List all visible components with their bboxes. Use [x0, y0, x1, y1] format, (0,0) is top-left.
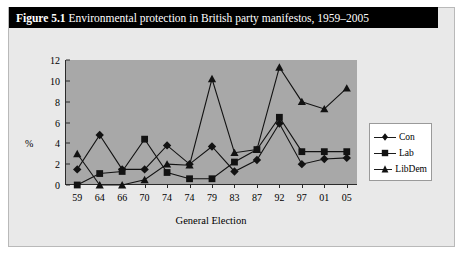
- plot-area: 024681012 59646670747479838792970105: [65, 60, 357, 185]
- x-axis-label: General Election: [65, 215, 357, 226]
- series-con: [73, 119, 351, 175]
- legend-marker-diamond: [374, 137, 396, 138]
- chart-container: % 024681012 59646670747479838792970105 G…: [9, 33, 438, 233]
- series-lab: [74, 114, 350, 189]
- y-axis-label: %: [25, 138, 33, 149]
- x-tick-87-8: 87: [252, 184, 262, 203]
- x-tick-74-4: 74: [162, 184, 172, 203]
- series-layer: [66, 60, 358, 185]
- x-tick-70-3: 70: [140, 184, 150, 203]
- x-tick-01-11: 01: [319, 184, 329, 203]
- x-tick-05-12: 05: [342, 184, 352, 203]
- chart-legend: Con Lab LibDem: [369, 123, 432, 181]
- figure-caption: Environmental protection in British part…: [66, 12, 369, 24]
- legend-item-lab: Lab: [374, 145, 427, 161]
- legend-item-libdem: LibDem: [374, 161, 427, 177]
- legend-item-con: Con: [374, 129, 427, 145]
- x-tick-97-10: 97: [297, 184, 307, 203]
- figure-number: Figure 5.1: [16, 12, 66, 24]
- x-tick-74-5: 74: [185, 184, 195, 203]
- legend-label-libdem: LibDem: [395, 164, 427, 174]
- x-tick-92-9: 92: [274, 184, 284, 203]
- y-tick-1: 2: [55, 159, 66, 170]
- y-tick-2: 4: [55, 138, 66, 149]
- legend-marker-triangle: [374, 169, 392, 170]
- legend-label-lab: Lab: [399, 148, 414, 158]
- series-libdem: [73, 63, 351, 188]
- y-tick-5: 10: [50, 75, 66, 86]
- legend-marker-square: [374, 153, 396, 154]
- legend-label-con: Con: [399, 132, 415, 142]
- x-tick-83-7: 83: [229, 184, 239, 203]
- y-tick-4: 8: [55, 96, 66, 107]
- y-tick-0: 0: [55, 180, 66, 191]
- y-tick-3: 6: [55, 117, 66, 128]
- figure-title-bar: Figure 5.1 Environmental protection in B…: [9, 7, 438, 28]
- y-tick-6: 12: [50, 55, 66, 66]
- x-tick-79-6: 79: [207, 184, 217, 203]
